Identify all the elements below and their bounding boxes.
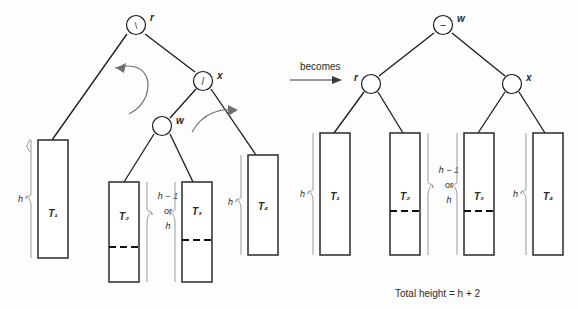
right-subtree-T2-label: T₂ <box>400 191 410 202</box>
left-node-x-label: x <box>216 70 223 81</box>
left-node-r: \ r <box>127 12 156 35</box>
edge-x-to-T4-right <box>519 92 545 133</box>
becomes-label: becomes <box>300 61 341 72</box>
right-subtree-T4-label: T₄ <box>543 191 553 202</box>
left-subtree-T2-label: T₂ <box>119 211 129 222</box>
left-subtree-T1-box <box>38 140 68 258</box>
left-height-line2: or <box>164 206 172 216</box>
left-tree-group: \ r / x w T₁ <box>18 12 278 282</box>
right-node-w-marker: − <box>440 19 446 31</box>
edge-w-to-T2 <box>124 134 154 182</box>
right-tree-group: − w r x T₁ h T₂ <box>300 13 563 299</box>
edge-x-to-T4 <box>211 89 256 155</box>
right-node-r-circle <box>362 75 381 94</box>
left-subtree-T4-height: h <box>228 197 233 207</box>
edge-w-to-x <box>452 33 505 76</box>
right-height-label-middle: h − 1 or h <box>439 165 459 205</box>
left-subtree-T3-box <box>182 182 212 282</box>
transition-becomes: becomes <box>290 61 342 84</box>
left-node-x-marker: / <box>202 76 205 87</box>
left-subtree-T1: T₁ h <box>18 140 68 258</box>
right-subtree-T4: T₄ h <box>513 133 563 255</box>
left-node-r-label: r <box>150 12 155 23</box>
right-subtree-T4-height: h <box>513 189 518 199</box>
left-subtree-T4-label: T₄ <box>258 201 268 212</box>
edge-w-to-T3 <box>170 134 193 182</box>
left-subtree-T1-label: T₁ <box>48 208 58 219</box>
right-node-x-label: x <box>525 72 532 83</box>
edge-r-to-T1 <box>52 34 127 140</box>
right-node-r-label: r <box>354 72 359 83</box>
left-node-w: w <box>153 115 186 136</box>
right-node-r: r <box>354 72 380 94</box>
right-subtree-T1: T₁ h <box>300 133 350 255</box>
right-node-x: x <box>503 72 533 94</box>
right-subtree-T3-label: T₃ <box>474 191 484 202</box>
left-subtree-T2-box <box>109 182 139 282</box>
right-height-line3: h <box>446 195 451 205</box>
becomes-arrow-head <box>332 76 342 84</box>
right-subtree-T1-label: T₁ <box>330 191 340 202</box>
edge-r-to-T2-right <box>378 92 403 133</box>
avl-rotation-figure: \ r / x w T₁ <box>0 0 578 309</box>
edge-r-to-T1-right <box>334 92 364 133</box>
right-subtree-T1-height: h <box>300 189 305 199</box>
left-subtree-T1-height: h <box>18 194 23 204</box>
right-height-line1: h − 1 <box>439 165 459 175</box>
right-subtree-T2: T₂ <box>390 133 433 255</box>
edge-r-to-x <box>145 34 195 72</box>
left-node-w-circle <box>153 117 172 136</box>
edge-x-to-w <box>170 89 196 118</box>
left-node-x: / x <box>194 70 224 91</box>
total-height-caption: Total height = h + 2 <box>395 288 481 299</box>
right-node-x-circle <box>503 75 522 94</box>
left-node-w-label: w <box>176 115 185 126</box>
left-subtree-T3-label: T₃ <box>192 206 202 217</box>
right-height-line2: or <box>445 180 453 190</box>
right-node-w-label: w <box>457 13 466 24</box>
edge-w-to-r <box>379 33 434 76</box>
left-height-line3: h <box>165 221 170 231</box>
edge-x-to-T3-right <box>478 92 505 133</box>
left-rotation-arrow-ccw <box>115 63 148 114</box>
right-node-w: − w <box>434 13 467 35</box>
left-subtree-T2: T₂ <box>109 182 152 282</box>
right-subtree-T3: T₃ <box>452 133 494 255</box>
left-subtree-T4: T₄ h <box>228 155 278 255</box>
